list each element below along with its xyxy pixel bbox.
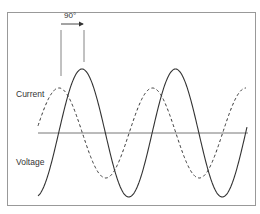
phase-diagram: 90° Current Voltage: [0, 0, 260, 214]
current-label: Current: [16, 89, 45, 99]
diagram-frame: [8, 13, 256, 206]
phase-shift-label: 90°: [64, 11, 76, 20]
voltage-label: Voltage: [16, 157, 45, 167]
